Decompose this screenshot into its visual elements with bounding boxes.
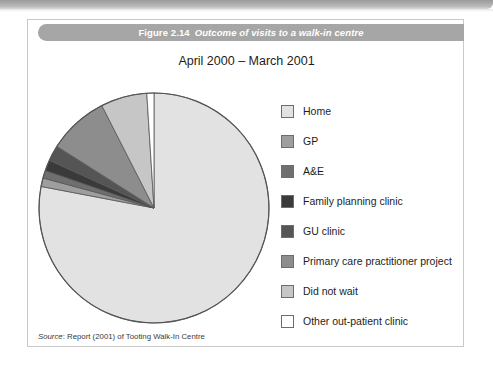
page-top-banner-strip [0,0,493,9]
source-note: Source: Report (2001) of Tooting Walk-In… [38,332,205,341]
figure-number: Figure 2.14 [138,27,189,38]
source-label: Source [38,332,63,341]
legend-item: Did not wait [281,276,481,306]
legend-swatch [281,285,294,298]
legend-item: Home [281,96,481,126]
legend-swatch [281,195,294,208]
legend-item-label: A&E [303,165,324,177]
legend-swatch [281,105,294,118]
chart-legend: HomeGPA&EFamily planning clinicGU clinic… [281,96,481,336]
legend-item-label: Other out-patient clinic [303,315,408,327]
legend-item: A&E [281,156,481,186]
legend-item-label: GU clinic [303,225,345,237]
legend-item: GP [281,126,481,156]
pie-chart [36,90,272,326]
legend-item: GU clinic [281,216,481,246]
legend-swatch [281,315,294,328]
legend-item-label: Primary care practitioner project [303,255,452,267]
legend-item: Other out-patient clinic [281,306,481,336]
legend-item: Family planning clinic [281,186,481,216]
legend-swatch [281,165,294,178]
chart-subtitle: April 2000 – March 2001 [0,54,493,68]
figure-title: Outcome of visits to a walk-in centre [195,27,364,38]
figure-caption-text: Figure 2.14Outcome of visits to a walk-i… [138,27,363,38]
legend-item: Primary care practitioner project [281,246,481,276]
legend-swatch [281,135,294,148]
legend-item-label: Family planning clinic [303,195,403,207]
legend-item-label: Home [303,105,331,117]
pie-chart-svg [36,90,272,326]
pie-slice-group [39,93,269,323]
legend-swatch [281,255,294,268]
legend-swatch [281,225,294,238]
legend-item-label: GP [303,135,318,147]
source-value: : Report (2001) of Tooting Walk-In Centr… [63,332,205,341]
figure-caption-bar: Figure 2.14Outcome of visits to a walk-i… [38,24,464,41]
page-top-banner-fade [0,9,493,12]
legend-item-label: Did not wait [303,285,358,297]
